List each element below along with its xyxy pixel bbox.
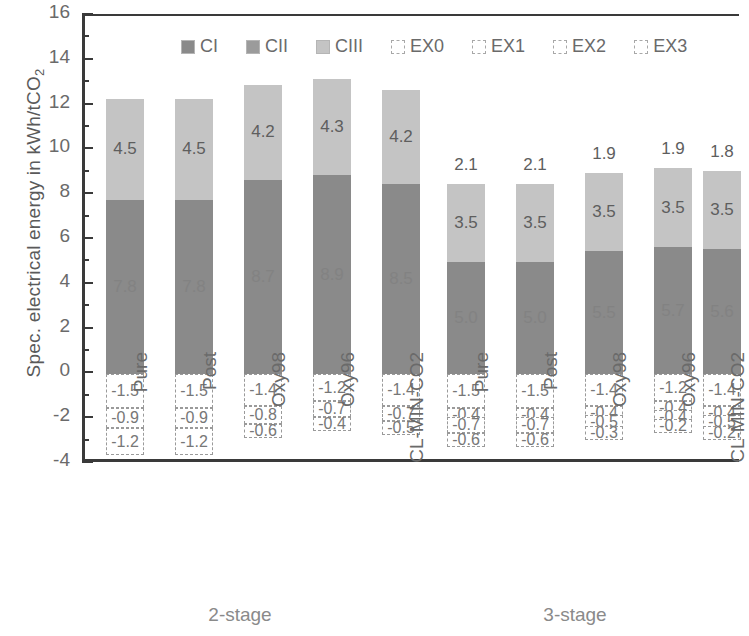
y-tick — [82, 439, 89, 441]
y-tick-label: 10 — [24, 135, 70, 157]
y-tick — [82, 327, 93, 329]
x-axis-label: Oxy96 — [337, 352, 359, 472]
legend-swatch-ex2-icon — [553, 40, 567, 54]
y-tick-label: 8 — [24, 180, 70, 202]
x-axis-label: Post — [199, 352, 221, 472]
y-axis-title-subscript: 2 — [32, 69, 47, 76]
y-tick-label: 12 — [24, 91, 70, 113]
segment-label-ci: 5.6 — [703, 303, 741, 320]
y-tick — [82, 58, 93, 60]
segment-label-ciii: 4.3 — [313, 118, 351, 135]
segment-label-ex0: 2.1 — [447, 156, 485, 173]
y-tick — [82, 13, 93, 15]
segment-label-ciii: 3.5 — [447, 214, 485, 231]
y-tick-label: 16 — [24, 1, 70, 23]
segment-label-ci: 5.0 — [447, 309, 485, 326]
segment-label-ci: 8.5 — [382, 270, 420, 287]
segment-label-ex0: 1.9 — [585, 145, 623, 162]
y-tick — [82, 304, 89, 306]
segment-label-ciii: 3.5 — [516, 214, 554, 231]
segment-label-ciii: 4.5 — [106, 140, 144, 157]
y-tick — [82, 80, 89, 82]
segment-label-ciii: 3.5 — [585, 203, 623, 220]
segment-label-ex0: 1.9 — [654, 140, 692, 157]
segment-label-ex0: 1.8 — [703, 143, 741, 160]
y-tick — [82, 394, 89, 396]
x-axis-label: Oxy98 — [268, 352, 290, 472]
y-tick — [82, 192, 93, 194]
y-tick — [82, 215, 89, 217]
segment-label-ci: 7.8 — [106, 278, 144, 295]
segment-label-ciii: 4.2 — [382, 128, 420, 145]
segment-label-ci: 8.7 — [244, 268, 282, 285]
x-axis-label: Pure — [471, 352, 493, 472]
x-axis-label: CL-MIN-CO2 — [727, 352, 749, 472]
y-tick-label: 6 — [24, 225, 70, 247]
group-label-3-stage: 3-stage — [495, 604, 655, 626]
x-axis-label: Post — [540, 352, 562, 472]
y-tick-label: 0 — [24, 359, 70, 381]
x-axis-label: Pure — [130, 352, 152, 472]
y-tick — [82, 103, 93, 105]
segment-label-ci: 7.8 — [175, 278, 213, 295]
y-tick — [82, 282, 93, 284]
y-tick — [82, 416, 93, 418]
y-tick-label: -2 — [24, 404, 70, 426]
segment-label-ciii: 3.5 — [654, 199, 692, 216]
y-tick — [82, 147, 93, 149]
y-tick — [82, 461, 93, 463]
segment-label-ciii: 4.2 — [244, 123, 282, 140]
legend-swatch-ex3-icon — [634, 40, 648, 54]
segment-label-ciii: 3.5 — [703, 201, 741, 218]
y-tick — [82, 349, 89, 351]
x-axis-label: Oxy96 — [678, 352, 700, 472]
y-tick — [82, 259, 89, 261]
segment-label-ciii: 4.5 — [175, 140, 213, 157]
segment-label-ci: 8.9 — [313, 266, 351, 283]
segment-label-ci: 5.7 — [654, 302, 692, 319]
y-tick — [82, 35, 89, 37]
y-tick-label: -4 — [24, 449, 70, 471]
y-tick — [82, 371, 93, 373]
y-tick — [82, 237, 93, 239]
group-label-2-stage: 2-stage — [160, 604, 320, 626]
x-axis-label: Oxy98 — [609, 352, 631, 472]
y-tick-label: 14 — [24, 46, 70, 68]
segment-label-ci: 5.5 — [585, 304, 623, 321]
y-tick — [82, 125, 89, 127]
y-tick-label: 4 — [24, 270, 70, 292]
y-tick-label: 2 — [24, 315, 70, 337]
segment-label-ex0: 2.1 — [516, 156, 554, 173]
y-tick — [82, 170, 89, 172]
segment-label-ci: 5.0 — [516, 309, 554, 326]
x-axis-label: CL-MIN-CO2 — [406, 352, 428, 472]
